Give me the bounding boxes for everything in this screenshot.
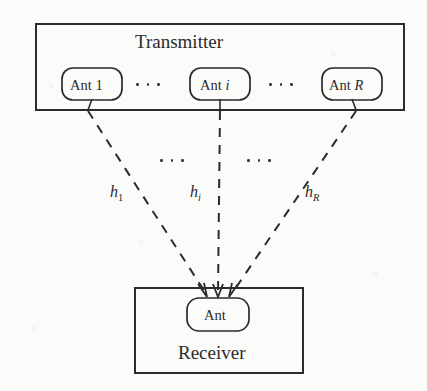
hi-symbol: h (190, 183, 198, 200)
channel-path-hR (233, 111, 356, 292)
miso-channel-diagram: Transmitter Ant 1 Ant i Ant R h1 hi hR A… (0, 0, 427, 391)
ant-R-index: R (354, 77, 363, 93)
ant-i-index: i (225, 77, 229, 93)
channel-ellipsis-right-icon (247, 159, 271, 162)
ant-i-prefix: Ant (200, 77, 222, 93)
transmitter-ellipsis-right-icon (269, 83, 293, 86)
ant-1-prefix: Ant (70, 77, 92, 93)
channel-path-hi (218, 111, 220, 292)
channel-label-h1: h1 (110, 184, 123, 204)
hR-symbol: h (305, 183, 313, 200)
ant-R-prefix: Ant (329, 77, 351, 93)
hR-subscript: R (313, 192, 319, 203)
ant-1-index: 1 (95, 77, 102, 93)
hi-subscript: i (198, 192, 201, 203)
transmitter-ellipsis-left-icon (136, 83, 160, 86)
channel-ellipsis-left-icon (160, 159, 184, 162)
h1-symbol: h (110, 183, 118, 200)
arrowhead-h1 (198, 283, 207, 297)
arrowhead-hR (229, 283, 238, 297)
receiver-title: Receiver (178, 343, 246, 362)
transmitter-title: Transmitter (135, 32, 223, 51)
h1-subscript: 1 (118, 192, 123, 203)
channel-label-hR: hR (305, 184, 319, 204)
receiver-antenna-label: Ant (204, 308, 226, 323)
diagram-vector-layer (0, 0, 427, 391)
transmitter-antenna-1-label: Ant 1 (70, 78, 103, 93)
channel-label-hi: hi (190, 184, 201, 204)
transmitter-antenna-R-label: Ant R (329, 78, 363, 93)
channel-path-h1 (88, 111, 205, 292)
transmitter-antenna-i-label: Ant i (200, 78, 229, 93)
